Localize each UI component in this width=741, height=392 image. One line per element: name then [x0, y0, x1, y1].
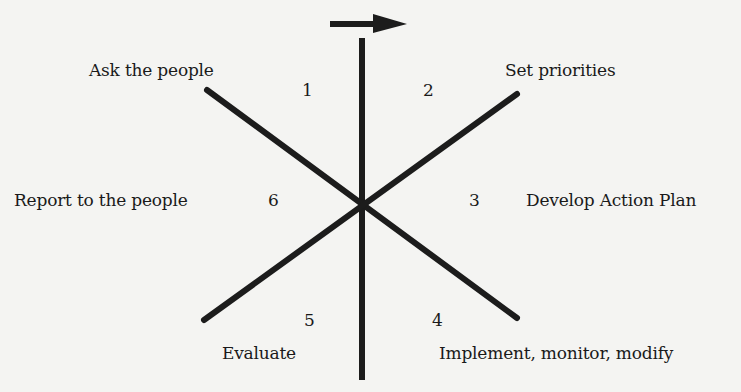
step-6-label: Report to the people: [14, 190, 188, 210]
step-5-label: Evaluate: [222, 343, 296, 363]
step-3-label: Develop Action Plan: [526, 190, 696, 210]
step-1-number: 1: [302, 80, 313, 100]
step-4-label: Implement, monitor, modify: [439, 343, 673, 363]
step-5-number: 5: [304, 310, 315, 330]
step-1-label: Ask the people: [89, 60, 214, 80]
step-4-number: 4: [432, 310, 443, 330]
step-2-label: Set priorities: [505, 60, 615, 80]
direction-arrow-icon: [330, 14, 407, 33]
step-3-number: 3: [469, 190, 480, 210]
step-2-number: 2: [423, 80, 434, 100]
step-6-number: 6: [268, 190, 279, 210]
